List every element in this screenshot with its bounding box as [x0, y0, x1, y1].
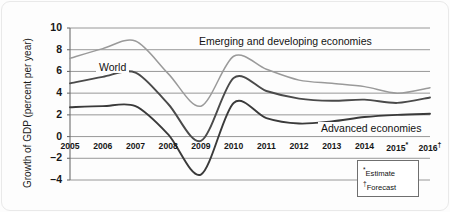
- series-label-advanced-economies: Advanced economies: [318, 122, 424, 134]
- x-tick-label-2016: 2016†: [410, 141, 450, 153]
- footnote-estimate: *Estimate: [363, 165, 418, 179]
- gdp-growth-chart-figure: Growth of GDP (percent per year) 10 8 6 …: [0, 0, 450, 212]
- series-label-emerging-and-developing-economies: Emerging and developing economies: [196, 35, 375, 47]
- series-label-world: World: [96, 61, 129, 73]
- footnote-forecast: †Forecast: [363, 179, 418, 193]
- footnote-box: *Estimate †Forecast: [357, 160, 419, 197]
